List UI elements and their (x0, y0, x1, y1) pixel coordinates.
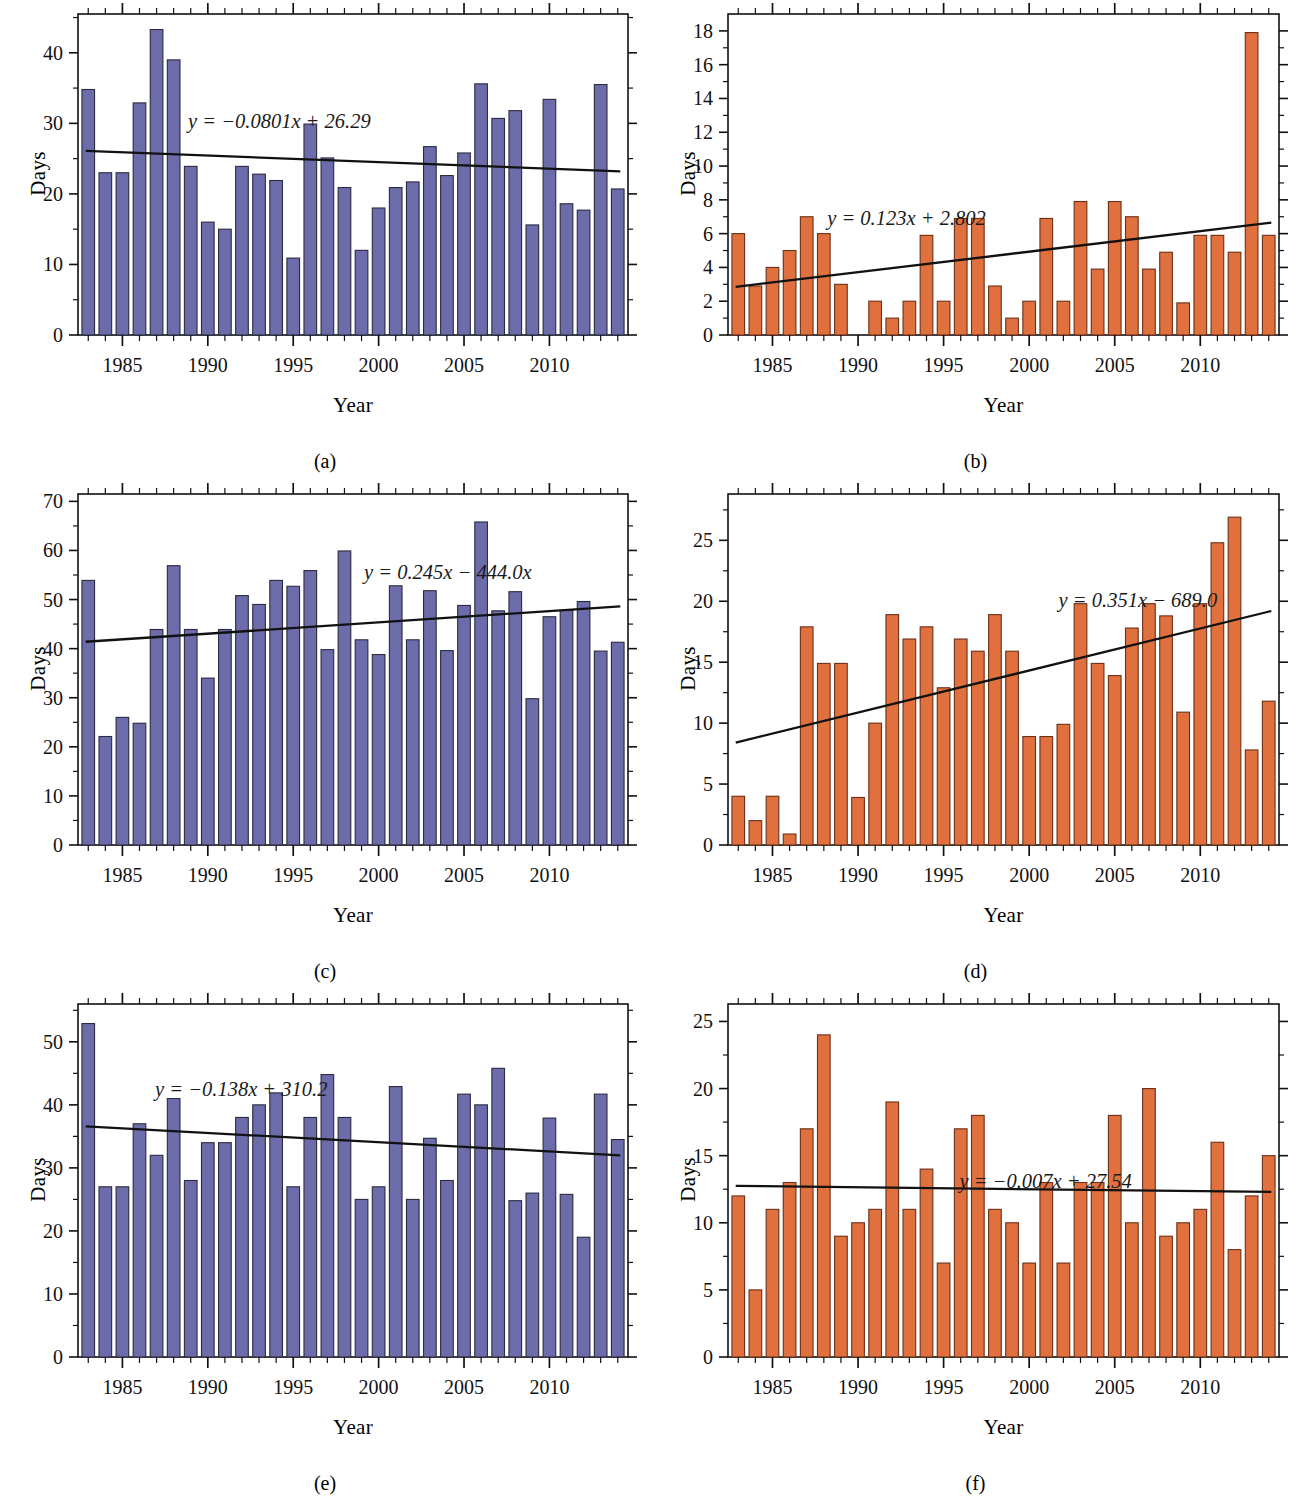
bar (1211, 1142, 1224, 1357)
bar (937, 301, 950, 335)
chart-panel-d: 0510152025198519901995200020052010DaysYe… (650, 480, 1301, 990)
bar (1108, 676, 1121, 845)
bar (1006, 651, 1019, 845)
bar (304, 571, 317, 845)
y-axis-title: Days (676, 118, 701, 228)
x-tick-label: 2000 (359, 864, 399, 886)
bar (1057, 1263, 1070, 1357)
bar (543, 99, 556, 335)
bar (732, 234, 745, 335)
chart-panel-a: 010203040198519901995200020052010DaysYea… (0, 0, 650, 480)
bar (526, 1193, 539, 1357)
bar (389, 586, 402, 845)
bar (116, 717, 129, 845)
bar (611, 642, 624, 845)
plot-area-c: 010203040506070198519901995200020052010 (0, 480, 650, 950)
bar (1091, 663, 1104, 845)
x-axis-title: Year (728, 1415, 1279, 1440)
bar (783, 251, 796, 335)
bar (577, 602, 590, 845)
bar (972, 651, 985, 845)
bar (989, 1209, 1002, 1357)
x-tick-label: 2005 (444, 1376, 484, 1398)
y-tick-label: 0 (703, 834, 713, 856)
y-tick-label: 16 (693, 54, 713, 76)
bar (1074, 604, 1087, 845)
bar (167, 1099, 180, 1357)
panel-caption-e: (e) (0, 1472, 650, 1495)
x-tick-label: 1990 (188, 1376, 228, 1398)
bar (577, 210, 590, 335)
y-tick-label: 4 (703, 256, 713, 278)
bar (406, 640, 419, 845)
x-tick-label: 2005 (444, 864, 484, 886)
bar (920, 627, 933, 845)
bar (852, 797, 865, 845)
bar (1040, 737, 1053, 845)
y-axis-title: Days (26, 118, 51, 228)
bar (954, 1129, 967, 1357)
bar (732, 796, 745, 845)
x-tick-label: 2005 (1095, 864, 1135, 886)
bar (783, 1183, 796, 1357)
bar (749, 286, 762, 335)
panel-caption-b: (b) (650, 450, 1301, 473)
bar (1143, 1089, 1156, 1357)
bar (1126, 217, 1139, 335)
y-tick-label: 5 (703, 1279, 713, 1301)
y-tick-label: 40 (43, 1094, 63, 1116)
bar (184, 629, 197, 845)
bar (82, 89, 95, 335)
bar (1160, 616, 1173, 845)
x-tick-label: 2000 (1009, 1376, 1049, 1398)
x-tick-label: 2010 (1180, 1376, 1220, 1398)
bar (800, 217, 813, 335)
bar (989, 286, 1002, 335)
bar (270, 1093, 283, 1357)
bar (1245, 750, 1258, 845)
bar (1108, 202, 1121, 335)
bar (1228, 1250, 1241, 1357)
bar (954, 218, 967, 335)
bar (1108, 1115, 1121, 1357)
bar (1177, 712, 1190, 845)
y-axis-title: Days (676, 1124, 701, 1234)
y-tick-label: 14 (693, 87, 713, 109)
bar (1023, 1263, 1036, 1357)
bar (817, 1035, 830, 1357)
bar (133, 103, 146, 335)
x-tick-label: 2010 (1180, 864, 1220, 886)
bar (817, 234, 830, 335)
bar (167, 60, 180, 335)
y-axis-title: Days (26, 613, 51, 723)
bar (937, 688, 950, 845)
trendline-equation: y = 0.123x + 2.802 (827, 207, 986, 230)
bar (1023, 737, 1036, 845)
bar (133, 723, 146, 845)
bar (783, 834, 796, 845)
y-tick-label: 6 (703, 223, 713, 245)
bar (321, 158, 334, 335)
bar (270, 181, 283, 336)
bar (1074, 1183, 1087, 1357)
y-tick-label: 0 (703, 1346, 713, 1368)
x-tick-label: 1990 (188, 864, 228, 886)
bar (389, 188, 402, 335)
bar (766, 267, 779, 335)
bar (458, 605, 471, 845)
y-tick-label: 20 (693, 1078, 713, 1100)
bar (920, 235, 933, 335)
bar (236, 1117, 249, 1357)
bar (372, 208, 385, 335)
bar (389, 1087, 402, 1357)
x-tick-label: 2005 (1095, 354, 1135, 376)
bar (835, 284, 848, 335)
bar (920, 1169, 933, 1357)
bar (543, 1118, 556, 1357)
bar (1091, 1183, 1104, 1357)
bar (1057, 724, 1070, 845)
trendline-equation: y = −0.0801x + 26.29 (188, 110, 371, 133)
x-tick-label: 1995 (924, 1376, 964, 1398)
bar (475, 1105, 488, 1357)
bar (287, 258, 300, 335)
